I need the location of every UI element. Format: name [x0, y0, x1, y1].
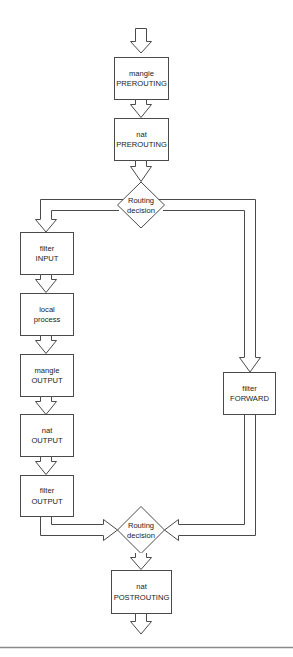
arrow-down-icon [36, 457, 57, 475]
node-mangle-output: mangle OUTPUT [21, 355, 74, 397]
arrow-down-icon [131, 100, 152, 118]
node-label-line1: mangle [129, 69, 154, 78]
node-label-line1: filter [242, 384, 257, 393]
node-filter-forward: filter FORWARD [224, 373, 276, 415]
node-label-line1: filter [40, 486, 55, 495]
branch-line-forward-inner [163, 211, 245, 358]
node-label-line1: filter [40, 244, 55, 253]
node-nat-postrouting: nat POSTROUTING [112, 571, 172, 614]
node-label-line1: mangle [35, 366, 60, 375]
arrow-down-icon [36, 275, 57, 293]
node-mangle-prerouting: mangle PREROUTING [115, 58, 169, 100]
node-label-line1: Routing [128, 521, 154, 530]
arrow-down-icon [36, 397, 57, 415]
node-label-line1: nat [42, 426, 53, 435]
arrow-down-icon [36, 336, 57, 354]
merge-line-output-outer [41, 517, 104, 536]
merge-line-forward-outer [179, 415, 256, 536]
node-routing-decision-2: Routing decision [118, 507, 165, 554]
node-label-line2: OUTPUT [31, 497, 63, 506]
branch-line-input-inner [52, 211, 120, 220]
node-nat-output: nat OUTPUT [21, 415, 74, 457]
node-label-line1: local [39, 305, 55, 314]
arrow-down-icon [36, 220, 57, 233]
node-label-line1: Routing [128, 196, 154, 205]
arrow-down-icon [131, 553, 152, 570]
arrow-right-icon [104, 520, 118, 541]
node-local-process: local process [21, 294, 74, 336]
node-label-line2: decision [127, 206, 155, 215]
arrow-down-icon [240, 358, 261, 373]
branch-line-input [41, 200, 125, 220]
node-label-line2: FORWARD [230, 394, 269, 403]
node-filter-output: filter OUTPUT [21, 476, 74, 517]
node-label-line2: decision [127, 531, 155, 540]
merge-line-forward-inner [179, 415, 245, 525]
node-label-line1: nat [136, 582, 147, 591]
branch-line-forward [158, 200, 256, 358]
entry-arrow-icon [131, 29, 152, 54]
node-label-line2: INPUT [36, 254, 59, 263]
node-label-line2: OUTPUT [31, 376, 63, 385]
netfilter-flow-diagram: mangle PREROUTING nat PREROUTING Routing… [0, 0, 293, 657]
merge-line-output-inner [52, 517, 104, 525]
node-label-line2: PREROUTING [116, 140, 167, 149]
node-label-line2: process [34, 315, 61, 324]
arrow-left-icon [165, 520, 179, 541]
exit-arrow-icon [131, 614, 152, 635]
node-filter-input: filter INPUT [21, 233, 74, 275]
node-label-line2: OUTPUT [31, 436, 63, 445]
node-label-line2: PREROUTING [116, 79, 167, 88]
node-routing-decision-1: Routing decision [118, 182, 165, 228]
arrow-down-icon [131, 161, 152, 182]
node-label-line2: POSTROUTING [114, 593, 170, 602]
node-nat-prerouting: nat PREROUTING [115, 119, 169, 161]
node-label-line1: nat [136, 130, 147, 139]
